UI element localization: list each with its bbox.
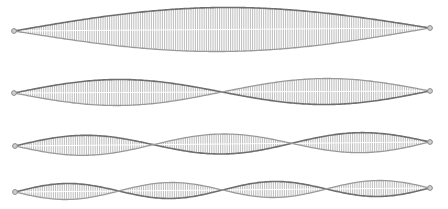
standing-wave-diagram xyxy=(0,0,448,209)
fixed-end-right-icon xyxy=(428,89,433,94)
wave-harmonic-4 xyxy=(13,180,433,199)
fixed-end-right-icon xyxy=(428,186,433,191)
wave-harmonic-3 xyxy=(13,133,433,156)
fixed-end-left-icon xyxy=(13,144,18,149)
wave-harmonic-1 xyxy=(12,7,433,51)
fixed-end-right-icon xyxy=(428,140,433,145)
fixed-end-left-icon xyxy=(12,91,17,96)
wave-harmonic-2 xyxy=(12,79,433,106)
fixed-end-left-icon xyxy=(13,190,18,195)
fixed-end-left-icon xyxy=(12,29,17,34)
fixed-end-right-icon xyxy=(428,26,433,31)
harmonics-figure xyxy=(0,0,448,209)
